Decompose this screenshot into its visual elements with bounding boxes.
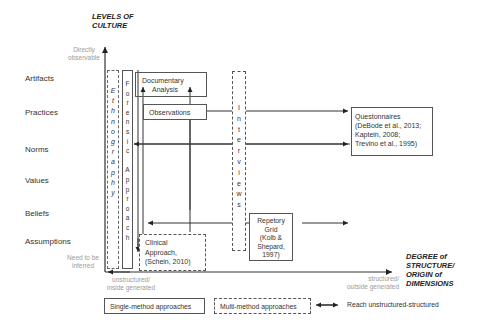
letter: g [111, 137, 115, 147]
letter: v [237, 157, 241, 168]
letter: h [111, 178, 115, 188]
letter: h [111, 106, 115, 116]
legend-single-method: Single-method approaches [104, 298, 205, 314]
label-line: (DeBode et al., 2013; [355, 121, 432, 130]
label-line: Documentary [142, 76, 206, 85]
legend-reach: Reach unstructured-structured [347, 301, 439, 308]
letter: e [237, 179, 241, 190]
letter: F [126, 79, 130, 89]
x-axis-title-line: ORIGIN of [406, 270, 454, 279]
x-axis-title-line: STRUCTURE/ [406, 261, 454, 270]
letter: o [126, 89, 130, 99]
label-line: Repetory [250, 217, 292, 226]
structured-label: structured/ outside generated [335, 275, 399, 291]
level-assumptions: Assumptions [25, 237, 71, 246]
legend-label: Multi-method approaches [220, 303, 297, 310]
label-line: Analysis [142, 85, 206, 94]
letter: c [126, 223, 129, 233]
level-norms: Norms [25, 145, 49, 154]
letter: t [238, 125, 240, 136]
letter: c [126, 146, 129, 156]
forensic-approach-label: F o r e n s i c A p p r o a c h [122, 79, 133, 242]
letter: s [237, 200, 241, 211]
unstructured-label: unstructured/ inside generated [100, 276, 162, 292]
y-axis-title: LEVELS OF CULTURE [92, 12, 134, 30]
letter: h [126, 233, 130, 243]
interviews-label: I n t e r v i e w s [232, 103, 246, 211]
legend-multi-method: Multi-method approaches [214, 298, 311, 314]
letter: e [237, 135, 241, 146]
clinical-approach-box: Clinical Approach, (Schein, 2010) [139, 234, 206, 271]
level-beliefs: Beliefs [25, 209, 49, 218]
letter: p [111, 168, 115, 178]
letter: y [111, 188, 115, 198]
label-line: (Kolb & [250, 234, 292, 243]
letter: a [111, 157, 115, 167]
letter: I [238, 103, 240, 114]
letter: i [238, 168, 240, 179]
label-line: (Schein, 2010) [145, 257, 205, 267]
letter: s [126, 127, 129, 137]
label-line: outside generated [335, 283, 399, 291]
label-line: Directly [64, 46, 104, 54]
letter: r [238, 146, 240, 157]
label-line: Questonnaires [355, 112, 432, 121]
need-to-be-inferred-label: Need to be inferred [62, 254, 104, 270]
label-line: Shepard, [250, 243, 292, 252]
label-line: Clinical [145, 238, 205, 248]
directly-observable-label: Directly observable [64, 46, 104, 62]
letter: A [125, 165, 129, 175]
label-line: Need to be [62, 254, 104, 262]
observations-box: Observations [143, 104, 207, 120]
label-line: inside generated [100, 284, 162, 292]
letter: r [126, 98, 128, 108]
label-line: observable [64, 54, 104, 62]
x-axis-title-line: DEGREE of [406, 252, 454, 261]
label-line: inferred [62, 262, 104, 270]
level-practices: Practices [25, 108, 58, 117]
label-line: Kaptein, 2008; [355, 130, 432, 139]
label-line: Approach, [145, 248, 205, 258]
letter: w [236, 189, 241, 200]
letter: o [111, 127, 115, 137]
letter: a [126, 213, 130, 223]
label-line: structured/ [335, 275, 399, 283]
letter: o [126, 204, 130, 214]
letter: n [111, 117, 115, 127]
letter: t [112, 96, 114, 106]
label-line: Grid [250, 226, 292, 235]
letter: r [112, 147, 114, 157]
y-axis-title-line: CULTURE [92, 21, 134, 30]
letter: i [127, 137, 128, 147]
label-line: Observations [149, 109, 190, 116]
letter: n [237, 114, 241, 125]
letter: p [126, 185, 130, 195]
level-values: Values [25, 176, 49, 185]
level-artifacts: Artifacts [25, 74, 54, 83]
letter: n [126, 117, 130, 127]
label-line: Trevino et al., 1995) [355, 139, 432, 148]
repetory-grid-box: Repetory Grid (Kolb & Shepard, 1997) [249, 213, 293, 261]
documentary-analysis-box: Documentary Analysis [135, 72, 207, 97]
questionnaires-box: Questonnaires (DeBode et al., 2013; Kapt… [351, 107, 433, 156]
x-axis-title: DEGREE of STRUCTURE/ ORIGIN of DIMENSION… [406, 252, 454, 288]
legend-label: Single-method approaches [110, 303, 191, 310]
label-line: unstructured/ [100, 276, 162, 284]
letter: E [111, 86, 116, 96]
ethnography-label: E t h n o g r a p h y [107, 86, 119, 198]
letter: r [126, 194, 128, 204]
letter: p [126, 175, 130, 185]
label-line: 1997) [250, 251, 292, 260]
y-axis-title-line: LEVELS OF [92, 12, 134, 21]
letter: e [126, 108, 130, 118]
x-axis-title-line: DIMENSIONS [406, 279, 454, 288]
